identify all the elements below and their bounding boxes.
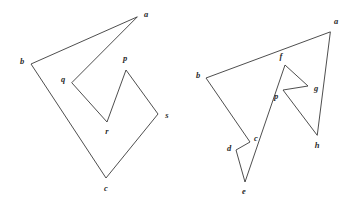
vertex-label-a: a: [144, 9, 149, 19]
vertex-label-g: g: [313, 83, 319, 93]
right-polygon-outline: [206, 32, 330, 182]
polygon-figure-canvas: a b c s p r q a b c d e f g p h: [0, 0, 352, 202]
vertex-label-e: e: [242, 186, 246, 196]
vertex-label-c: c: [254, 133, 258, 143]
right-polygon-labels: a b c d e f g p h: [196, 16, 339, 196]
vertex-label-b: b: [196, 70, 200, 80]
left-polygon-group: a b c s p r q: [20, 9, 169, 193]
vertex-label-b: b: [20, 56, 24, 66]
vertex-label-f: f: [280, 51, 284, 61]
vertex-label-s: s: [164, 110, 169, 120]
left-polygon-labels: a b c s p r q: [20, 9, 169, 193]
vertex-label-p: p: [122, 53, 127, 63]
right-polygon-group: a b c d e f g p h: [196, 16, 339, 196]
vertex-label-p: p: [273, 91, 278, 101]
vertex-label-c: c: [104, 183, 108, 193]
vertex-label-a: a: [334, 16, 339, 26]
vertex-label-q: q: [61, 74, 66, 84]
vertex-label-d: d: [227, 143, 232, 153]
vertex-label-h: h: [315, 140, 320, 150]
vertex-label-r: r: [105, 126, 109, 136]
left-polygon-outline: [31, 17, 158, 178]
